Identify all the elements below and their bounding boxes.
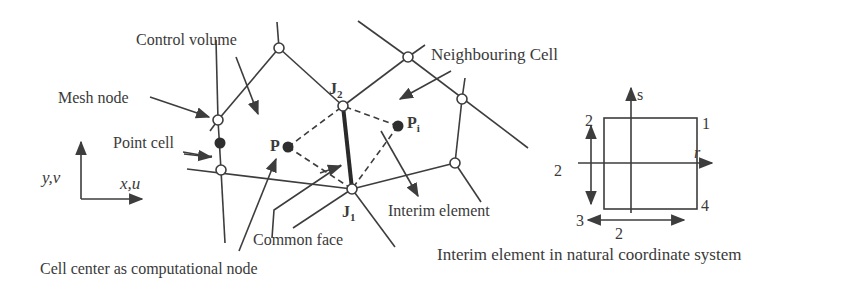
node-j1 [347, 184, 357, 194]
control-volume-label: Control volume [136, 31, 237, 48]
cell-center-label: Cell center as computational node [40, 260, 258, 278]
y-axis-label: y,v [40, 168, 61, 187]
mesh-nodes [213, 43, 467, 194]
mesh-node [274, 43, 284, 53]
mesh-node-pointer [150, 97, 209, 117]
mesh-node [403, 52, 413, 62]
corner-4-label: 4 [701, 197, 709, 214]
corner-3-label: 3 [576, 212, 584, 229]
cell-center-p-dot [283, 142, 294, 153]
width-dimension-label: 2 [615, 225, 623, 242]
height-dimension-label: 2 [554, 162, 562, 179]
mesh-node [450, 158, 460, 168]
j2-label: J2 [329, 80, 343, 100]
finite-volume-mesh-diagram: Control volume Mesh node Neighbouring Ce… [0, 0, 859, 286]
mesh-node [216, 165, 226, 175]
neighbouring-cell-pointer [400, 71, 451, 99]
s-axis-label: s [637, 86, 643, 103]
natural-element-caption: Interim element in natural coordinate sy… [437, 245, 741, 264]
pi-label: Pi [407, 114, 420, 134]
p-label: P [270, 137, 280, 154]
neighbouring-cell-label: Neighbouring Cell [431, 45, 558, 64]
mesh-node [213, 115, 223, 125]
point-cell-label: Point cell [113, 134, 174, 151]
mesh-node [457, 94, 467, 104]
x-axis-label: x,u [119, 174, 140, 193]
interim-element-label: Interim element [388, 202, 490, 219]
interim-element-pointer [381, 131, 418, 196]
cell-center-pi-dot [393, 121, 404, 132]
common-face-line [343, 106, 352, 189]
mesh-node-label: Mesh node [58, 89, 129, 106]
callout-arrows [150, 57, 451, 251]
j1-label: J1 [342, 203, 356, 223]
node-j2 [338, 101, 348, 111]
control-volume-pointer [236, 57, 258, 114]
point-cell-dot [215, 138, 226, 149]
corner-1-label: 1 [702, 115, 710, 132]
r-axis-label: r [694, 144, 701, 161]
corner-2-label: 2 [585, 112, 593, 129]
common-face-label: Common face [253, 231, 343, 248]
